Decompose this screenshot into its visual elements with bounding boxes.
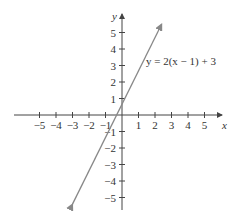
- x-tick-label: −2: [83, 119, 95, 131]
- equation-label: y = 2(x − 1) + 3: [146, 55, 216, 68]
- y-tick-label: 4: [111, 43, 117, 55]
- y-tick-label: 1: [111, 93, 117, 105]
- y-axis-label: y: [111, 10, 117, 22]
- coordinate-plane: −5−4−3−2−112345 −5−4−3−2−112345 x y y = …: [0, 0, 237, 220]
- x-tick-label: 3: [169, 119, 175, 131]
- y-tick-label: −5: [104, 192, 116, 204]
- y-tick-label: −4: [104, 175, 116, 187]
- x-tick-label: 1: [136, 119, 142, 131]
- function-line: [73, 24, 162, 204]
- y-tick-label: 3: [111, 60, 117, 72]
- x-tick-label: −5: [34, 119, 46, 131]
- x-tick-label: 4: [185, 119, 191, 131]
- x-tick-label: −3: [67, 119, 79, 131]
- y-tick-label: −2: [104, 142, 116, 154]
- y-tick-label: −3: [104, 159, 116, 171]
- x-tick-label: 2: [152, 119, 158, 131]
- x-tick-label: 5: [202, 119, 208, 131]
- x-axis-label: x: [221, 119, 227, 131]
- y-tick-label: 2: [111, 76, 117, 88]
- y-tick-label: 5: [111, 27, 117, 39]
- x-tick-label: −4: [50, 119, 62, 131]
